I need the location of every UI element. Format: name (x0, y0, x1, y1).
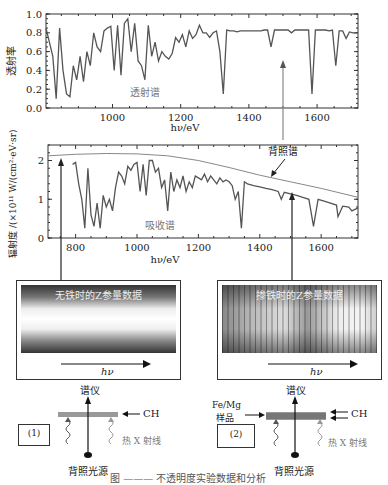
left-source-dot (84, 452, 92, 458)
transmission-ytick-label: 0.2 (26, 84, 42, 95)
right-hv-label: hν (310, 366, 323, 377)
left-schematic: 谱仪 CH (1) 热 X 射线 背照光源 (0, 380, 194, 460)
absorption-series-line (73, 161, 358, 229)
absorption-annotation: 吸收谱 (145, 219, 175, 231)
left-xray-wave-2 (109, 420, 113, 444)
right-case-label: (2) (217, 429, 255, 439)
left-source-label: 背照光源 (68, 463, 108, 478)
figure-caption: 图 ——— 不透明度实验数据和分析 (110, 470, 266, 485)
transmission-xtick-label: 1400 (236, 112, 261, 123)
left-beam-arrowhead (85, 396, 91, 404)
transmission-ytick-label: 0.0 (26, 103, 42, 114)
right-schematic: 谱仪 Fe/Mg 样品 CH (2) 热 X 射线 背照光源 (190, 380, 388, 460)
right-source-dot (291, 452, 299, 458)
right-image-title: 掺铁时的Z参量数据 (218, 287, 381, 302)
transmission-plot-frame (46, 14, 358, 108)
right-beam-arrowhead (292, 396, 298, 404)
right-ch-label: CH (351, 408, 367, 419)
transmission-series-line (46, 19, 356, 99)
radiance-xtick-label: 1000 (124, 242, 149, 253)
transmission-ylabel: 透射率 (5, 46, 17, 76)
radiance-ytick-label: 0 (38, 233, 44, 244)
radiance-xtick-label: 1200 (186, 242, 211, 253)
radiance-ytick-label: 1 (38, 194, 44, 205)
radiance-ylabel: 辐射度 /(×10¹¹ W/(cm²·eV·sr)) (7, 130, 18, 258)
transmission-xtick-label: 1000 (100, 112, 125, 123)
left-image-title: 无铁时的Z参量数据 (17, 287, 180, 302)
left-case-label: (1) (18, 428, 50, 438)
left-ch-label: CH (143, 408, 159, 419)
backlight-pointer-arrowhead (271, 170, 277, 177)
radiance-xtick-label: 1400 (247, 242, 272, 253)
transmission-ytick-label: 0.8 (26, 27, 42, 38)
transmission-ytick-label: 0.4 (26, 65, 42, 76)
left-xray-label: 热 X 射线 (122, 434, 161, 447)
right-source-label: 背照光源 (274, 463, 314, 478)
transmission-xtick-label: 1600 (304, 112, 329, 123)
radiance-xtick-label: 800 (66, 242, 85, 253)
transmission-ytick-label: 1.0 (26, 9, 42, 20)
radiance-ytick-label: 2 (38, 155, 44, 166)
left-image-panel: 无铁时的Z参量数据 hν (16, 280, 181, 380)
right-image-panel: 掺铁时的Z参量数据 hν (217, 280, 382, 380)
radiance-xlabel: hν/eV (150, 254, 180, 265)
left-xray-wave-1 (66, 420, 70, 444)
radiance-chart: 012 8001000120014001600 吸收谱 背照谱 hν/eV 辐射… (0, 130, 388, 275)
right-xray-label: 热 X 射线 (328, 436, 367, 449)
backlight-series-line (48, 154, 358, 198)
right-xray-wave-2 (318, 422, 322, 446)
right-xray-wave-1 (274, 422, 278, 446)
left-hv-label: hν (101, 366, 114, 377)
transmission-ytick-label: 0.6 (26, 46, 42, 57)
transmission-annotation: 透射谱 (130, 86, 160, 98)
transmission-chart: 0.00.20.40.60.81.0 1000120014001600 透射谱 … (0, 0, 388, 135)
radiance-xtick-label: 1600 (308, 242, 333, 253)
backlight-annotation: 背照谱 (268, 145, 298, 157)
